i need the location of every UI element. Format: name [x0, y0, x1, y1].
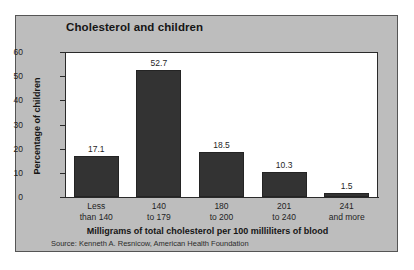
y-tick-mark [60, 197, 65, 198]
y-tick-label: 50 [0, 72, 23, 81]
y-tick-label: 60 [0, 48, 23, 57]
x-category-label-line: 180 [190, 201, 253, 212]
x-category-label-line: and more [315, 212, 378, 223]
chart-figure: Cholesterol and children Percentage of c… [0, 0, 414, 270]
x-category-label: 201to 240 [253, 201, 316, 223]
x-category-label-line: to 179 [128, 212, 191, 223]
x-category-label: 241and more [315, 201, 378, 223]
y-tick-mark [60, 100, 65, 101]
bar [74, 156, 119, 197]
y-tick-mark [60, 52, 65, 53]
y-tick-mark [60, 173, 65, 174]
x-category-label-line: 241 [315, 201, 378, 212]
bar-value-label: 18.5 [190, 141, 253, 150]
x-category-label-line: 140 [128, 201, 191, 212]
bar-value-label: 1.5 [315, 182, 378, 191]
y-tick-label: 40 [0, 96, 23, 105]
x-category-label-line: 201 [253, 201, 316, 212]
y-tick-mark [60, 76, 65, 77]
x-axis-title: Milligrams of total cholesterol per 100 … [16, 226, 399, 236]
bar-value-label: 10.3 [253, 161, 316, 170]
y-tick-label: 10 [0, 169, 23, 178]
x-category-label-line: than 140 [65, 212, 128, 223]
bar [262, 172, 307, 197]
bar [136, 70, 181, 197]
x-category-label-line: to 200 [190, 212, 253, 223]
x-category-label: 180to 200 [190, 201, 253, 223]
y-tick-mark [60, 125, 65, 126]
bar-value-label: 52.7 [128, 59, 191, 68]
chart-panel: Cholesterol and children Percentage of c… [15, 15, 398, 252]
y-tick-label: 30 [0, 121, 23, 130]
y-tick-label: 20 [0, 145, 23, 154]
source-note: Source: Kenneth A. Resnicow, American He… [51, 239, 249, 248]
bar-value-label: 17.1 [65, 145, 128, 154]
chart-title: Cholesterol and children [66, 21, 203, 33]
x-category-label: Lessthan 140 [65, 201, 128, 223]
y-axis-line [65, 52, 66, 198]
y-tick-label: 0 [0, 193, 23, 202]
bar [199, 152, 244, 197]
bar [324, 193, 369, 197]
x-category-label-line: to 240 [253, 212, 316, 223]
x-category-label-line: Less [65, 201, 128, 212]
y-axis-title: Percentage of children [32, 61, 42, 191]
x-category-label: 140to 179 [128, 201, 191, 223]
x-axis-line [65, 197, 379, 198]
